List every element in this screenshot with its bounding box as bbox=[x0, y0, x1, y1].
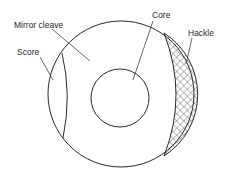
label-score: Score bbox=[17, 47, 39, 57]
core-circle bbox=[91, 69, 149, 127]
fiber-endface-diagram: Mirror cleave Score Core Hackle bbox=[0, 0, 230, 180]
label-hackle: Hackle bbox=[188, 28, 214, 38]
core-leader bbox=[133, 21, 153, 80]
score-line bbox=[62, 53, 67, 138]
score-leader bbox=[40, 57, 53, 80]
mirror-cleave-leader bbox=[52, 29, 90, 61]
label-core: Core bbox=[152, 10, 171, 20]
label-mirror-cleave: Mirror cleave bbox=[14, 20, 63, 30]
